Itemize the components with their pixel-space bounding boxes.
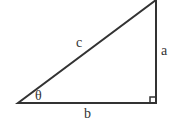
label-hypotenuse: c (76, 35, 82, 50)
label-opposite: a (161, 43, 168, 58)
label-angle-theta: θ (35, 88, 42, 103)
right-triangle-diagram: c a b θ (0, 0, 179, 121)
label-adjacent: b (84, 106, 91, 121)
